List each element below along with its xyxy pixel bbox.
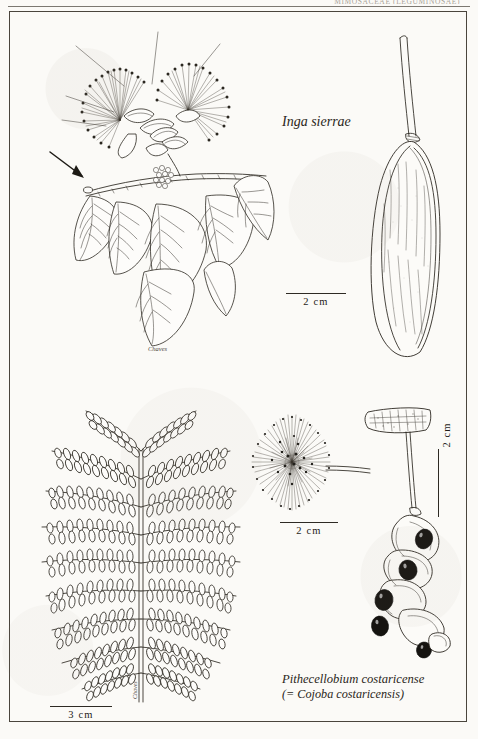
leaf-rachis — [139, 449, 143, 702]
scale-bar-line — [286, 293, 346, 294]
pithecellobium-name: Pithecellobium costaricense — [282, 672, 424, 686]
inga-leaflets — [74, 176, 274, 346]
header-rule — [8, 6, 470, 7]
scale-bar-line — [50, 706, 112, 707]
scale-bar-leaf: 3 cm — [50, 706, 112, 720]
figure-pithecellobium-leaf: Chaves — [20, 407, 260, 707]
inga-petiole-gland — [84, 187, 93, 193]
figure-pithecellobium-flowerhead — [238, 410, 373, 520]
running-head: MIMOSACEAE (LEGUMINOSAE) — [334, 0, 460, 4]
scale-bar-label: 3 cm — [50, 709, 112, 720]
scale-bar-inga-pod: 2 cm — [286, 293, 346, 307]
artist-signature-inga: Chaves — [148, 345, 168, 352]
arrow-annotation — [50, 152, 84, 178]
illustration-page: MIMOSACEAE (LEGUMINOSAE) — [0, 0, 478, 739]
figure-inga-flowering-branch: Chaves — [28, 24, 278, 354]
figure-inga-pod — [360, 30, 470, 370]
leaflets — [46, 410, 235, 702]
scale-bar-label: 2 cm — [280, 525, 338, 536]
pod-twig — [365, 408, 431, 433]
scale-bar-flowerhead: 2 cm — [280, 522, 338, 536]
pinna-pair-8 — [62, 647, 220, 663]
pod-coil — [380, 515, 444, 646]
pinna-pair-6 — [46, 590, 236, 596]
inga-species-label: Inga sierrae — [282, 114, 351, 130]
artist-signature-leaf: Chaves — [132, 681, 138, 699]
plate-frame: Chaves — [9, 11, 467, 722]
scale-bar-pod-vertical: 2 cm — [438, 449, 452, 517]
pithecellobium-species-label: Pithecellobium costaricense (= Cojoba co… — [282, 672, 424, 701]
scale-bar-line — [280, 522, 338, 523]
scale-bar-line — [438, 449, 439, 517]
scale-bar-label: 2 cm — [286, 296, 346, 307]
pithecellobium-synonym: (= Cojoba costaricensis) — [282, 687, 424, 702]
inga-corolla-tubes — [118, 109, 200, 158]
scale-bar-label: 2 cm — [441, 411, 452, 459]
